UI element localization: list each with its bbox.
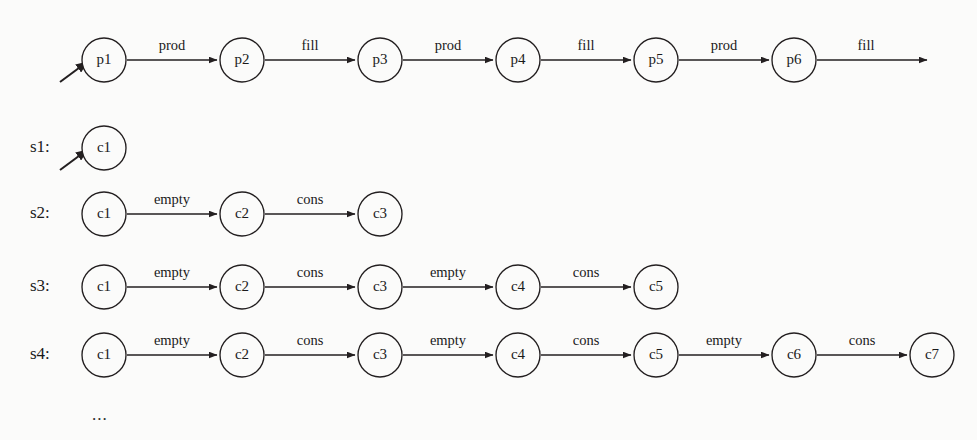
node-label: c2 [235, 346, 249, 362]
node-label: c1 [97, 205, 111, 221]
edge-label: empty [706, 332, 743, 348]
edge-label: prod [435, 37, 462, 53]
node-c7-s4-row[interactable]: c7 [910, 333, 954, 377]
diagram-rows: prodfillprodfillprodfillp1p2p3p4p5p6s1:c… [30, 37, 954, 424]
node-label: c6 [787, 346, 802, 362]
node-label: c5 [649, 346, 663, 362]
node-c1-s4-row[interactable]: c1 [82, 333, 126, 377]
edge-label: prod [711, 37, 738, 53]
node-c1-s1-row[interactable]: c1 [82, 126, 126, 170]
node-c1-s3-row[interactable]: c1 [82, 265, 126, 309]
edge-label: cons [573, 264, 600, 280]
edge-label: cons [849, 332, 876, 348]
row-label-s1-row: s1: [30, 137, 50, 156]
diagram-page: prodfillprodfillprodfillp1p2p3p4p5p6s1:c… [0, 0, 977, 440]
node-label: c2 [235, 205, 249, 221]
edge-label: empty [154, 191, 191, 207]
node-label: c4 [511, 278, 526, 294]
node-label: p2 [235, 51, 250, 67]
edge-label: empty [154, 264, 191, 280]
node-p5-producer-row[interactable]: p5 [634, 38, 678, 82]
node-c6-s4-row[interactable]: c6 [772, 333, 816, 377]
node-p3-producer-row[interactable]: p3 [358, 38, 402, 82]
ellipsis-label: ... [92, 405, 108, 424]
node-label: p3 [373, 51, 388, 67]
s3-row: s3:emptyconsemptyconsc1c2c3c4c5 [30, 264, 678, 309]
node-label: p1 [97, 51, 112, 67]
row-label-s2-row: s2: [30, 203, 50, 222]
node-p6-producer-row[interactable]: p6 [772, 38, 816, 82]
node-c2-s2-row[interactable]: c2 [220, 192, 264, 236]
edge-label: empty [430, 264, 467, 280]
node-label: c3 [373, 278, 387, 294]
node-label: c3 [373, 346, 387, 362]
node-c4-s4-row[interactable]: c4 [496, 333, 540, 377]
node-p2-producer-row[interactable]: p2 [220, 38, 264, 82]
node-c3-s4-row[interactable]: c3 [358, 333, 402, 377]
edge-label: prod [159, 37, 186, 53]
node-label: p4 [511, 51, 527, 67]
trailing-edge-label: fill [858, 37, 875, 53]
edge-label: cons [297, 191, 324, 207]
node-label: c1 [97, 139, 111, 155]
s4-row: s4:emptyconsemptyconsemptyconsc1c2c3c4c5… [30, 332, 954, 377]
s1-row: s1:c1 [30, 126, 126, 170]
node-label: c1 [97, 346, 111, 362]
node-c3-s3-row[interactable]: c3 [358, 265, 402, 309]
node-c5-s3-row[interactable]: c5 [634, 265, 678, 309]
producer-row: prodfillprodfillprodfillp1p2p3p4p5p6 [60, 37, 927, 82]
s2-row: s2:emptyconsc1c2c3 [30, 191, 402, 236]
node-label: p5 [649, 51, 664, 67]
node-c4-s3-row[interactable]: c4 [496, 265, 540, 309]
node-label: c2 [235, 278, 249, 294]
edge-label: fill [578, 37, 595, 53]
node-label: c4 [511, 346, 526, 362]
node-c2-s4-row[interactable]: c2 [220, 333, 264, 377]
node-label: p6 [787, 51, 803, 67]
edge-label: empty [430, 332, 467, 348]
node-c5-s4-row[interactable]: c5 [634, 333, 678, 377]
edge-label: cons [573, 332, 600, 348]
node-p4-producer-row[interactable]: p4 [496, 38, 540, 82]
node-label: c7 [925, 346, 940, 362]
edge-label: cons [297, 264, 324, 280]
node-label: c5 [649, 278, 663, 294]
node-c3-s2-row[interactable]: c3 [358, 192, 402, 236]
node-c2-s3-row[interactable]: c2 [220, 265, 264, 309]
edge-label: empty [154, 332, 191, 348]
edge-label: cons [297, 332, 324, 348]
node-label: c3 [373, 205, 387, 221]
node-p1-producer-row[interactable]: p1 [82, 38, 126, 82]
edge-label: fill [302, 37, 319, 53]
row-label-s3-row: s3: [30, 276, 50, 295]
transition-system-diagram: prodfillprodfillprodfillp1p2p3p4p5p6s1:c… [0, 0, 977, 440]
node-label: c1 [97, 278, 111, 294]
row-label-s4-row: s4: [30, 344, 50, 363]
node-c1-s2-row[interactable]: c1 [82, 192, 126, 236]
